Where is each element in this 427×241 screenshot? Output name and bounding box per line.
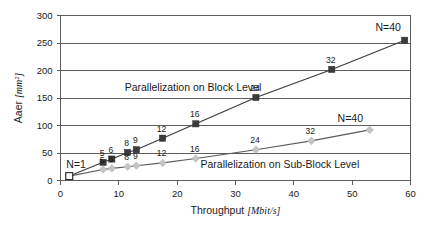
data-point-block-level [402, 37, 408, 43]
y-tick-label: 200 [37, 65, 53, 76]
y-axis-title: Aaer [mm²] [12, 73, 24, 123]
data-point-label: 16 [190, 109, 200, 119]
data-point-label: 32 [306, 126, 316, 136]
data-point-label: 5 [100, 155, 105, 165]
data-point-label: 9 [133, 135, 138, 145]
data-point-origin [66, 173, 73, 180]
data-point-block-level [329, 66, 335, 72]
data-point-label: 12 [157, 124, 167, 134]
data-point-sub-block-level [133, 162, 141, 170]
y-tick-label: 300 [37, 10, 53, 21]
x-tick-label: 20 [172, 188, 183, 199]
data-point-sub-block-level [159, 159, 167, 167]
data-point-sub-block-level [192, 155, 200, 163]
data-point-label: 12 [157, 148, 167, 158]
x-tick-label: 60 [405, 188, 416, 199]
data-point-block-level [253, 94, 259, 100]
chart-annotation: N=1 [66, 158, 86, 170]
data-point-sub-block-level [252, 146, 260, 154]
x-tick-label: 50 [347, 188, 358, 199]
data-point-label: 16 [190, 144, 200, 154]
x-tick-label: 40 [289, 188, 300, 199]
x-tick-label: 10 [114, 188, 125, 199]
chart-figure: 568912162432568912162432 050100150200250… [0, 0, 427, 241]
series-line [69, 40, 404, 176]
chart-annotation: N=40 [338, 112, 364, 124]
data-point-block-level [193, 121, 199, 127]
y-tick-label: 250 [37, 37, 53, 48]
data-point-sub-block-level [99, 166, 107, 174]
x-tick-label: 0 [58, 188, 63, 199]
data-point-block-level [159, 135, 165, 141]
data-point-sub-block-level [308, 137, 316, 145]
y-tick-label: 150 [37, 92, 53, 103]
data-point-label: 24 [250, 135, 260, 145]
x-tick-label: 30 [230, 188, 241, 199]
data-point-sub-block-level [366, 126, 374, 134]
data-point-label: 8 [124, 138, 129, 148]
chart-annotation: Parallelization on Block Level [125, 81, 262, 93]
data-point-label: 32 [326, 55, 336, 65]
y-tick-label: 0 [47, 175, 52, 186]
data-point-sub-block-level [124, 163, 132, 171]
tick-labels-group: 0501001502002503000102030405060 [37, 10, 416, 199]
y-tick-label: 100 [37, 120, 53, 131]
data-point-label: 8 [124, 152, 129, 162]
x-axis-title: Throughput [Mbit/s] [191, 204, 281, 216]
chart-annotation: Parallelization on Sub-Block Level [201, 158, 360, 170]
chart-annotation: N=40 [376, 21, 402, 33]
y-tick-label: 50 [42, 147, 53, 158]
data-point-label: 6 [108, 154, 113, 164]
chart-canvas: 568912162432568912162432 050100150200250… [0, 0, 427, 241]
data-point-sub-block-level [108, 165, 116, 173]
data-point-label: 9 [133, 151, 138, 161]
